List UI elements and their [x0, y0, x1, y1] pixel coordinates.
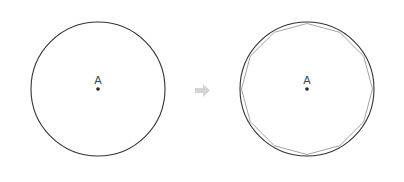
diagram-canvas: A A — [0, 0, 404, 182]
left-center-label: A — [94, 74, 102, 87]
right-center-label: A — [303, 74, 311, 87]
arrow-right-icon — [195, 84, 210, 97]
left-center-point — [96, 87, 100, 91]
right-center-point — [305, 87, 309, 91]
